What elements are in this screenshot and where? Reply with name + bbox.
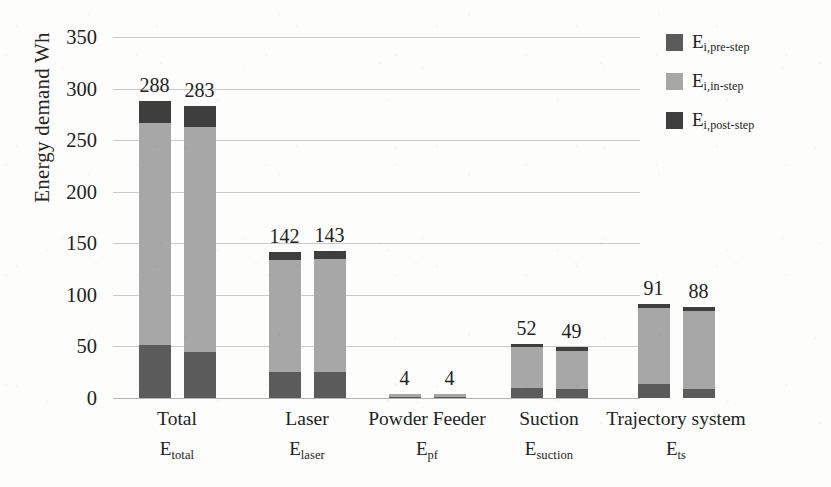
- chart-legend: Ei,pre-stepEi,in-stepEi,post-step: [666, 32, 826, 149]
- stacked-bar-chart: Energy demand Wh 050100150200250300350 2…: [0, 0, 831, 487]
- legend-swatch-in-step: [666, 73, 683, 90]
- bar-segment-post-step: [269, 252, 301, 260]
- bar-segment-in-step: [139, 123, 171, 346]
- bar-powder-feeder-2[interactable]: [434, 394, 466, 398]
- y-tick-label-250: 250: [66, 129, 97, 152]
- legend-label: Ei,in-step: [692, 71, 744, 92]
- legend-swatch-post-step: [666, 112, 683, 129]
- bar-trajectory-system-2[interactable]: [683, 307, 715, 398]
- bar-laser-2[interactable]: [314, 251, 346, 398]
- bar-segment-post-step: [184, 106, 216, 127]
- x-category-name: Trajectory system: [606, 408, 746, 429]
- bar-segment-pre-step: [269, 372, 301, 398]
- bar-segment-pre-step: [638, 384, 670, 398]
- bar-segment-in-step: [511, 347, 543, 387]
- bar-segment-pre-step: [389, 397, 421, 398]
- bar-suction-1[interactable]: [511, 344, 543, 398]
- y-tick-label-350: 350: [66, 26, 97, 49]
- legend-label: Ei,pre-step: [692, 32, 750, 53]
- bar-value-label: 283: [168, 79, 232, 102]
- x-category-trajectory-system: Trajectory systemEts: [586, 404, 766, 465]
- bar-segment-post-step: [139, 101, 171, 123]
- bar-segment-pre-step: [184, 352, 216, 398]
- y-tick-label-100: 100: [66, 283, 97, 306]
- y-tick-label-200: 200: [66, 180, 97, 203]
- bar-value-label: 4: [418, 367, 482, 390]
- bar-segment-pre-step: [314, 372, 346, 398]
- bar-segment-in-step: [269, 260, 301, 372]
- bar-value-label: 49: [540, 320, 604, 343]
- y-tick-label-300: 300: [66, 77, 97, 100]
- x-category-name: Suction: [519, 408, 579, 429]
- gridline-0: [113, 398, 640, 399]
- y-tick-label-50: 50: [77, 335, 98, 358]
- bar-segment-in-step: [556, 351, 588, 389]
- bar-trajectory-system-1[interactable]: [638, 304, 670, 398]
- legend-item[interactable]: Ei,post-step: [666, 110, 826, 132]
- bar-total-1[interactable]: [139, 101, 171, 398]
- legend-label: Ei,post-step: [692, 110, 754, 131]
- bar-segment-in-step: [683, 311, 715, 388]
- y-tick-label-150: 150: [66, 232, 97, 255]
- bar-segment-pre-step: [434, 397, 466, 398]
- bar-value-label: 88: [667, 280, 731, 303]
- bar-segment-pre-step: [556, 389, 588, 398]
- x-category-symbol: Ets: [586, 434, 766, 465]
- bar-series-area: 2882831421434452499188: [113, 37, 640, 398]
- x-category-name: Total: [157, 408, 197, 429]
- x-axis-category-labels: TotalEtotalLaserElaserPowder FeederEpfSu…: [113, 404, 640, 474]
- bar-value-label: 143: [298, 224, 362, 247]
- bar-suction-2[interactable]: [556, 347, 588, 398]
- y-axis-tick-labels: 050100150200250300350: [0, 37, 105, 398]
- bar-laser-1[interactable]: [269, 252, 301, 398]
- bar-segment-post-step: [314, 251, 346, 259]
- bar-segment-in-step: [184, 127, 216, 352]
- x-category-name: Laser: [285, 408, 328, 429]
- legend-item[interactable]: Ei,pre-step: [666, 32, 826, 54]
- bar-segment-in-step: [314, 259, 346, 372]
- bar-segment-in-step: [638, 308, 670, 383]
- legend-item[interactable]: Ei,in-step: [666, 71, 826, 93]
- bar-segment-pre-step: [139, 345, 171, 398]
- bar-powder-feeder-1[interactable]: [389, 394, 421, 398]
- bar-total-2[interactable]: [184, 106, 216, 398]
- bar-segment-pre-step: [511, 388, 543, 398]
- legend-swatch-pre-step: [666, 34, 683, 51]
- bar-segment-pre-step: [683, 389, 715, 398]
